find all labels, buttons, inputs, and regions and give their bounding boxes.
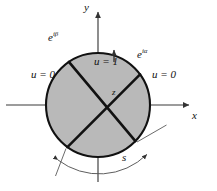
figure-canvas: y x eiβ eiα u = 1 u = 0 u = 0 z s — [0, 0, 217, 191]
boundary-point-e-i-alpha-label: eiα — [137, 48, 147, 60]
region-label-left-wedge: u = 0 — [31, 69, 55, 80]
diagram-svg — [0, 0, 217, 191]
boundary-point-e-i-beta-label: eiβ — [48, 31, 58, 43]
x-axis-label: x — [192, 110, 197, 121]
arc-length-s-label: s — [122, 152, 126, 163]
e-alpha-exponent: iα — [142, 47, 147, 54]
e-beta-exponent: iβ — [53, 30, 58, 37]
y-axis-label: y — [84, 2, 89, 13]
region-label-right-wedge: u = 0 — [152, 69, 176, 80]
region-label-top-wedge: u = 1 — [94, 56, 118, 67]
point-z-label: z — [112, 88, 116, 97]
